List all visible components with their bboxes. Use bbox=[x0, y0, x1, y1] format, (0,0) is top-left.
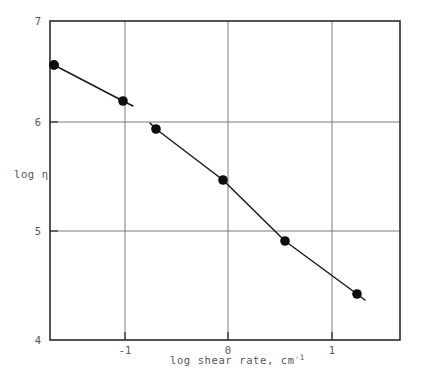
x-tick-label-minus1: -1 bbox=[119, 344, 132, 356]
y-tick-label-6: 6 bbox=[35, 116, 41, 128]
line-chart: 7 6 5 4 -1 0 1 log η log shear rate, cm-… bbox=[0, 0, 434, 374]
x-tick-label-1: 1 bbox=[329, 344, 335, 356]
data-point bbox=[352, 289, 362, 299]
x-axis-title: log shear rate, cm-1 bbox=[170, 353, 305, 366]
data-point bbox=[151, 124, 161, 134]
x-axis-title-main: log shear rate, cm bbox=[170, 354, 295, 366]
data-point bbox=[49, 60, 59, 70]
y-tick-label-7: 7 bbox=[35, 15, 41, 27]
data-point bbox=[118, 96, 128, 106]
y-tick-label-4: 4 bbox=[35, 334, 41, 346]
y-tick-label-5: 5 bbox=[35, 225, 41, 237]
x-axis-title-superscript: -1 bbox=[295, 353, 305, 362]
data-point bbox=[280, 236, 290, 246]
y-axis-title: log η bbox=[14, 168, 49, 180]
figure-container: 7 6 5 4 -1 0 1 log η log shear rate, cm-… bbox=[0, 0, 434, 374]
data-point bbox=[218, 175, 228, 185]
